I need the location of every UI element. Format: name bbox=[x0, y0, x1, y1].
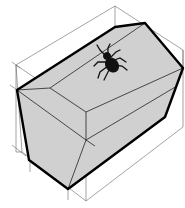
diagram-canvas: Truncated box with spider on top face bbox=[0, 0, 185, 208]
polyhedron bbox=[17, 23, 183, 189]
